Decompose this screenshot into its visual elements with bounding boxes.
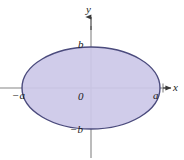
figure-canvas [0, 0, 184, 160]
ellipse-shape [22, 47, 160, 129]
x-axis-label: x [173, 82, 178, 93]
origin-label: 0 [78, 91, 84, 102]
semi-minor-axis-label-negative: −b [70, 124, 83, 135]
semi-major-axis-label-negative: −a [12, 90, 25, 101]
semi-minor-axis-label-positive: b [78, 39, 84, 50]
ellipse-figure: y x b −b a −a 0 [0, 0, 184, 160]
semi-major-axis-label-positive: a [153, 90, 159, 101]
y-axis-label: y [86, 4, 91, 15]
